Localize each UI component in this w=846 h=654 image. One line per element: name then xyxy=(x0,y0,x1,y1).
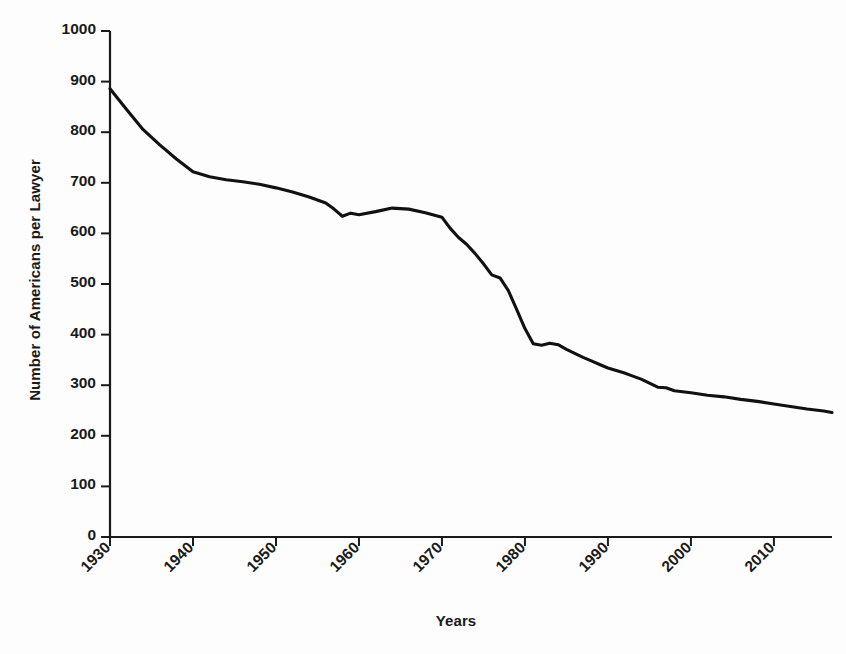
y-tick-label: 0 xyxy=(87,526,96,544)
y-tick-label: 500 xyxy=(70,273,96,291)
y-tick-label: 600 xyxy=(70,222,96,240)
y-tick-label: 300 xyxy=(70,374,96,392)
chart-container: 01002003004005006007008009001000 1930194… xyxy=(0,0,846,654)
y-tick-label: 800 xyxy=(70,121,96,139)
y-tick-label: 1000 xyxy=(62,20,96,38)
y-tick-label: 700 xyxy=(70,172,96,190)
data-line-series-0 xyxy=(110,89,832,413)
y-tick-label: 400 xyxy=(70,324,96,342)
y-axis-title: Number of Americans per Lawyer xyxy=(26,20,43,540)
y-tick-label: 900 xyxy=(70,71,96,89)
x-axis-title: Years xyxy=(396,612,516,629)
y-tick-label: 200 xyxy=(70,425,96,443)
y-tick-label: 100 xyxy=(70,475,96,493)
axes-group xyxy=(110,31,832,537)
tick-marks-group xyxy=(101,31,774,546)
